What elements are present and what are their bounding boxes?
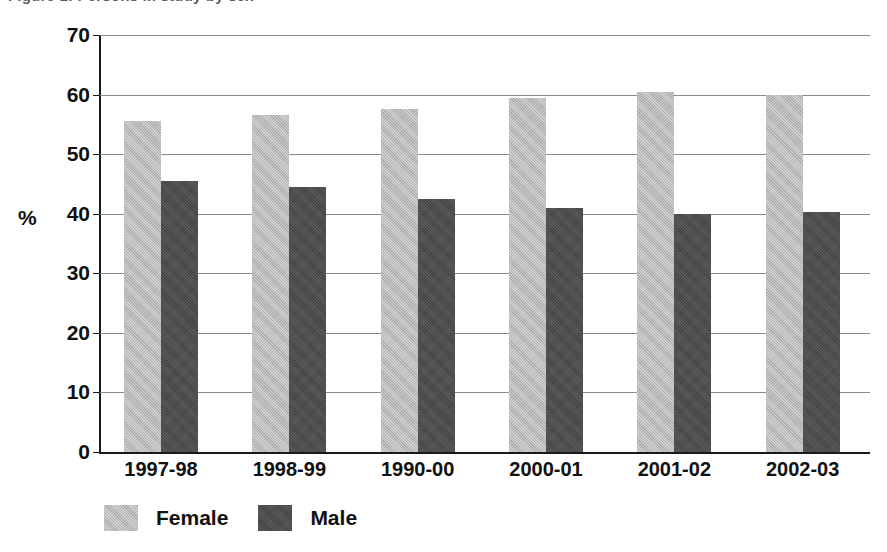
gridline-70 xyxy=(100,35,870,36)
y-axis-tick-labels: 706050403020100 xyxy=(0,0,90,552)
gridline-50 xyxy=(100,154,870,155)
gridline-60 xyxy=(100,95,870,96)
bar-male-1997-98 xyxy=(161,181,198,452)
gridline-20 xyxy=(100,333,870,334)
y-tick-label-20: 20 xyxy=(44,322,90,343)
bar-female-2002-03 xyxy=(766,95,803,452)
bar-male-1998-99 xyxy=(289,187,326,452)
bar-male-2000-01 xyxy=(546,208,583,452)
bar-chart: % 706050403020100 1997-981998-991990-002… xyxy=(0,0,887,552)
x-tick-label-2002-03: 2002-03 xyxy=(733,459,873,479)
bar-female-2000-01 xyxy=(509,98,546,452)
gridline-10 xyxy=(100,392,870,393)
y-tick-label-30: 30 xyxy=(44,262,90,283)
y-tick-40 xyxy=(93,214,100,215)
y-tick-label-50: 50 xyxy=(44,143,90,164)
legend-label-female: Female xyxy=(156,506,228,530)
x-tick-label-1998-99: 1998-99 xyxy=(219,459,359,479)
bar-female-1990-00 xyxy=(381,109,418,452)
x-tick-label-1990-00: 1990-00 xyxy=(348,459,488,479)
bar-female-1998-99 xyxy=(252,115,289,452)
gridline-40 xyxy=(100,214,870,215)
bar-male-2002-03 xyxy=(803,212,840,452)
legend-label-male: Male xyxy=(310,506,357,530)
gridline-30 xyxy=(100,273,870,274)
legend-item-female[interactable]: Female xyxy=(104,505,228,531)
y-tick-label-40: 40 xyxy=(44,203,90,224)
y-tick-70 xyxy=(93,35,100,36)
y-tick-label-70: 70 xyxy=(44,24,90,45)
bar-male-1990-00 xyxy=(418,199,455,452)
legend-swatch-female-icon xyxy=(104,505,138,531)
x-tick-label-2001-02: 2001-02 xyxy=(604,459,744,479)
chart-legend: FemaleMale xyxy=(104,505,357,531)
plot-area xyxy=(100,35,870,452)
y-tick-0 xyxy=(93,452,100,453)
y-tick-10 xyxy=(93,392,100,393)
y-tick-label-10: 10 xyxy=(44,381,90,402)
y-tick-label-0: 0 xyxy=(44,441,90,462)
y-tick-20 xyxy=(93,333,100,334)
legend-swatch-male-icon xyxy=(258,505,292,531)
bar-female-1997-98 xyxy=(124,121,161,452)
y-tick-50 xyxy=(93,154,100,155)
gridline-0 xyxy=(100,452,870,454)
x-tick-label-2000-01: 2000-01 xyxy=(476,459,616,479)
bar-female-2001-02 xyxy=(637,92,674,452)
y-tick-30 xyxy=(93,273,100,274)
y-tick-60 xyxy=(93,95,100,96)
bar-male-2001-02 xyxy=(674,214,711,452)
x-tick-label-1997-98: 1997-98 xyxy=(91,459,231,479)
y-tick-label-60: 60 xyxy=(44,84,90,105)
legend-item-male[interactable]: Male xyxy=(258,505,357,531)
